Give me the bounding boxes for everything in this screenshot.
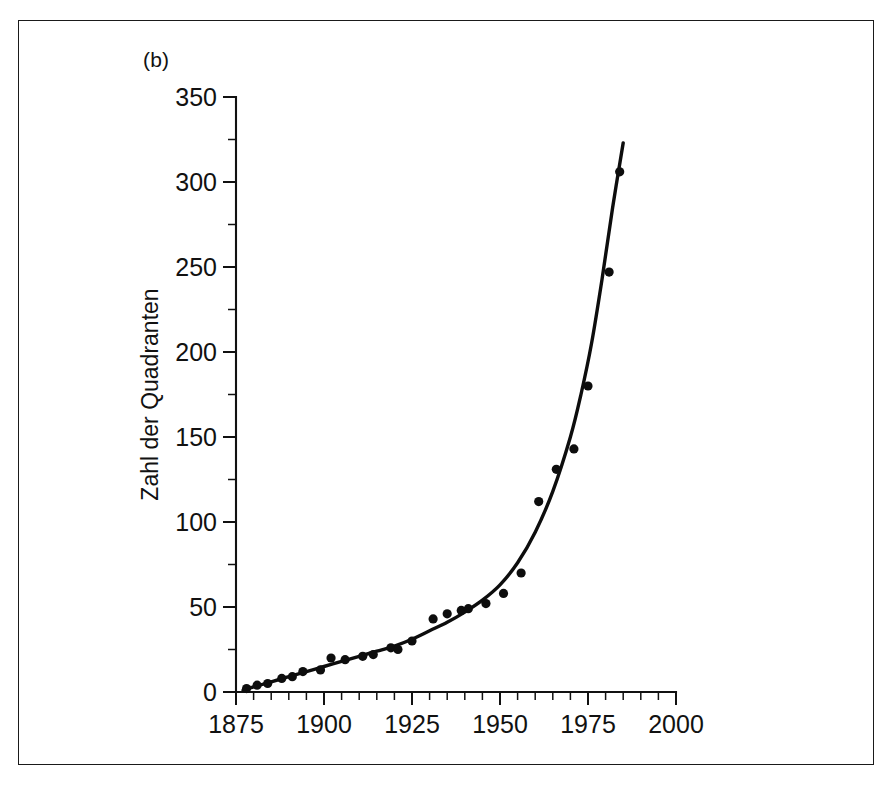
data-point-marker — [316, 665, 325, 674]
data-point-marker — [605, 268, 614, 277]
data-point-marker — [253, 681, 262, 690]
data-point-marker — [552, 465, 561, 474]
y-axis: 050100150200250300350 — [175, 83, 236, 706]
y-axis-title: Zahl der Quadranten — [137, 288, 163, 500]
data-point-marker — [429, 614, 438, 623]
x-tick-label: 1925 — [384, 710, 440, 738]
data-point-marker — [517, 568, 526, 577]
x-tick-label: 1950 — [472, 710, 528, 738]
data-point-marker — [242, 684, 251, 693]
data-point-marker — [443, 609, 452, 618]
y-tick-label: 350 — [175, 83, 217, 111]
data-point-marker — [481, 599, 490, 608]
data-point-marker — [277, 674, 286, 683]
data-point-marker — [326, 653, 335, 662]
chart-plot-area: 050100150200250300350 187519001925195019… — [0, 0, 890, 790]
data-point-marker — [464, 604, 473, 613]
y-tick-label: 250 — [175, 253, 217, 281]
data-point-marker — [583, 381, 592, 390]
x-axis: 187519001925195019752000 — [208, 692, 704, 738]
data-point-marker — [369, 650, 378, 659]
scatter-data-points — [242, 167, 624, 693]
fit-curve-path — [243, 143, 623, 690]
data-point-marker — [534, 497, 543, 506]
data-point-marker — [407, 636, 416, 645]
data-point-marker — [499, 589, 508, 598]
data-point-marker — [615, 167, 624, 176]
x-tick-label: 1975 — [560, 710, 616, 738]
figure-root: (b) 050100150200250300350 18751900192519… — [0, 0, 890, 790]
y-tick-label: 200 — [175, 338, 217, 366]
y-tick-label: 100 — [175, 508, 217, 536]
x-tick-label: 2000 — [648, 710, 704, 738]
y-tick-label: 0 — [203, 678, 217, 706]
exponential-fit-curve — [243, 143, 623, 690]
y-axis-title-text: Zahl der Quadranten — [137, 288, 163, 500]
data-point-marker — [288, 672, 297, 681]
x-tick-label: 1875 — [208, 710, 264, 738]
data-point-marker — [341, 655, 350, 664]
y-tick-label: 150 — [175, 423, 217, 451]
data-point-marker — [358, 652, 367, 661]
data-point-marker — [393, 645, 402, 654]
x-tick-label: 1900 — [296, 710, 352, 738]
data-point-marker — [569, 444, 578, 453]
y-tick-label: 300 — [175, 168, 217, 196]
data-point-marker — [298, 667, 307, 676]
y-tick-label: 50 — [189, 593, 217, 621]
data-point-marker — [263, 679, 272, 688]
